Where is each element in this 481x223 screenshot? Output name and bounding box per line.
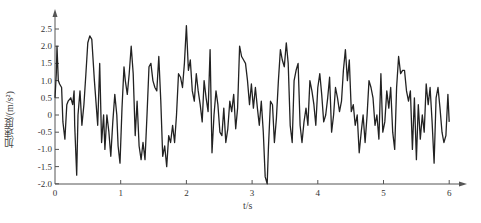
x-tick-label: 0 <box>53 188 58 198</box>
y-ticks: -2.0-1.5-1.0-0.500.51.01.52.02.5 <box>38 24 59 189</box>
x-tick-label: 3 <box>250 188 255 198</box>
y-tick-label: 1.5 <box>41 58 53 68</box>
x-axis-arrow-icon <box>459 182 467 187</box>
y-tick-label: 0 <box>48 110 53 120</box>
y-tick-label: -1.5 <box>38 162 53 172</box>
y-axis-label: 加速度/(m/s²) <box>3 65 17 175</box>
x-ticks: 0123456 <box>53 180 452 198</box>
y-tick-label: -0.5 <box>38 127 53 137</box>
x-tick-label: 6 <box>447 188 452 198</box>
acceleration-chart: -2.0-1.5-1.0-0.500.51.01.52.02.5 0123456 <box>0 0 481 223</box>
acceleration-trace <box>55 26 449 184</box>
x-tick-label: 1 <box>118 188 123 198</box>
y-tick-label: -1.0 <box>38 144 53 154</box>
y-tick-label: 0.5 <box>41 93 53 103</box>
y-tick-label: 2.5 <box>41 24 53 34</box>
y-tick-label: 2.0 <box>41 41 53 51</box>
y-tick-label: 1.0 <box>41 76 53 86</box>
x-tick-label: 2 <box>184 188 189 198</box>
x-tick-label: 5 <box>381 188 386 198</box>
y-tick-label: -2.0 <box>38 179 53 189</box>
x-axis-label: t/s <box>243 200 252 211</box>
y-axis-arrow-icon <box>53 9 58 17</box>
x-tick-label: 4 <box>316 188 321 198</box>
